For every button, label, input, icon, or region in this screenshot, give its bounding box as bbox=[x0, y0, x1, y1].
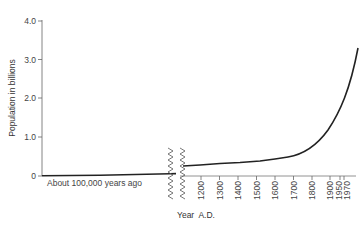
x-axis-title: Year A.D. bbox=[177, 210, 215, 220]
series-line-prehistoric bbox=[42, 174, 176, 176]
x-tick-label-1600: 1600 bbox=[270, 181, 280, 200]
y-axis-title: Population in billions bbox=[7, 59, 17, 137]
y-ticks bbox=[38, 21, 42, 176]
x-tick-label-1800: 1800 bbox=[307, 181, 317, 200]
population-chart: 4.0 3.0 2.0 1.0 0 Population in billions… bbox=[0, 0, 361, 232]
y-tick-label-4: 4.0 bbox=[24, 16, 36, 26]
x-tick-label-1400: 1400 bbox=[233, 181, 243, 200]
axis-break-squiggle-right bbox=[180, 148, 185, 199]
x-left-segment-label: About 100,000 years ago bbox=[47, 178, 142, 188]
x-tick-label-1300: 1300 bbox=[215, 181, 225, 200]
series-line-ad bbox=[183, 48, 358, 166]
x-tick-label-1200: 1200 bbox=[196, 181, 206, 200]
x-tick-label-1700: 1700 bbox=[289, 181, 299, 200]
x-ticks bbox=[201, 176, 344, 180]
x-tick-label-1970: 1970 bbox=[342, 181, 352, 200]
x-tick-label-1500: 1500 bbox=[252, 181, 262, 200]
y-tick-label-3: 3.0 bbox=[24, 55, 36, 65]
y-tick-label-0: 0 bbox=[31, 171, 36, 181]
y-tick-label-1: 1.0 bbox=[24, 132, 36, 142]
y-tick-label-2: 2.0 bbox=[24, 93, 36, 103]
